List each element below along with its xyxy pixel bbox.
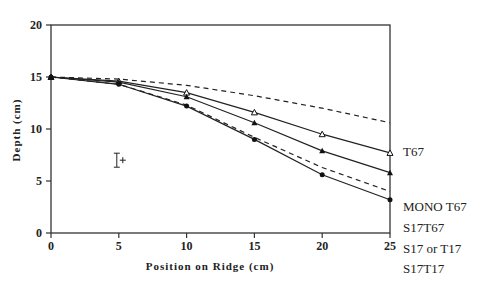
series-label-t67: T67 [403,144,424,159]
circle-marker-icon [49,75,54,80]
series-labels: T67MONO T67S17T67S17 or T17S17T17 [403,144,467,276]
plot-frame [51,25,390,233]
x-axis-title: Position on Ridge (cm) [146,260,275,273]
series-mono-t67 [48,74,393,155]
y-tick-label: 5 [36,174,42,188]
x-tick-label: 20 [316,239,328,253]
series-lines [48,74,393,202]
y-axis-ticks: 05101520 [30,18,51,240]
plot-border [51,25,390,233]
series-label-s17-or-t17: S17 or T17 [403,241,462,256]
depth-vs-position-chart: 05101520 0510152025 T67MONO T67S17T67S17… [0,0,481,284]
circle-marker-icon [388,197,393,202]
circle-marker-icon [184,104,189,109]
y-tick-label: 10 [30,122,42,136]
y-axis-title: Depth (cm) [10,99,23,162]
x-tick-label: 10 [181,239,193,253]
series-label-mono-t67: MONO T67 [403,199,467,214]
series-line [51,77,390,191]
series-s17-or-t17 [51,77,390,191]
circle-marker-icon [252,137,257,142]
x-axis-ticks: 0510152025 [48,233,396,253]
y-tick-label: 0 [36,226,42,240]
circle-marker-icon [116,82,121,87]
series-s17t17 [49,75,393,203]
x-tick-label: 0 [48,239,54,253]
x-tick-label: 15 [248,239,260,253]
series-label-s17t17: S17T17 [403,261,445,276]
x-tick-label: 25 [384,239,396,253]
series-label-s17t67: S17T67 [403,220,445,235]
series-line [51,77,390,153]
series-line [51,77,390,123]
y-tick-label: 20 [30,18,42,32]
series-s17t67 [48,74,393,175]
x-tick-label: 5 [116,239,122,253]
circle-marker-icon [320,172,325,177]
error-bar-annotation [114,153,126,167]
series-t67 [51,77,390,123]
series-line [51,77,390,173]
y-tick-label: 15 [30,70,42,84]
